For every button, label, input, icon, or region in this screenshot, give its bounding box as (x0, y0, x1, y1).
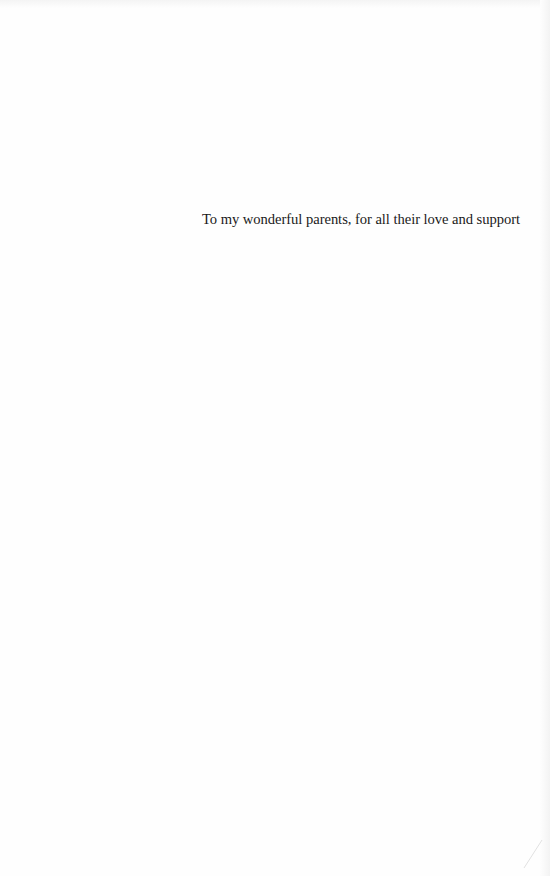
book-page: To my wonderful parents, for all their l… (0, 0, 550, 876)
page-edge-shadow (540, 0, 550, 876)
scan-edge-top (0, 0, 550, 8)
page-curl-mark-icon (522, 830, 544, 870)
dedication-text: To my wonderful parents, for all their l… (202, 211, 520, 228)
